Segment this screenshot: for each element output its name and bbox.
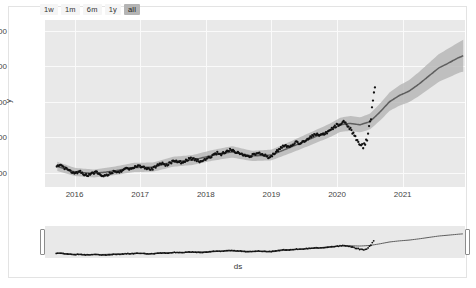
x-axis-title: ds [0, 262, 476, 271]
x-tick-label: 2021 [394, 190, 412, 199]
range-slider-traces [45, 226, 465, 258]
y-axis-title: y [4, 99, 13, 103]
range-button-6m[interactable]: 6m [83, 4, 102, 15]
x-tick-label: 2017 [131, 190, 149, 199]
range-slider-svg [45, 226, 465, 258]
forecast-line [57, 56, 463, 174]
mini-observed-points [55, 240, 374, 256]
range-button-1m[interactable]: 1m [61, 4, 80, 15]
range-end-handle[interactable] [465, 229, 470, 255]
range-button-1w[interactable]: 1w [40, 4, 58, 15]
plot-screenshot: 1w 1m 6m 1y all 2004006008001000 2016201… [0, 0, 476, 288]
range-selector[interactable]: 1w 1m 6m 1y all [40, 3, 140, 16]
x-tick-label: 2020 [328, 190, 346, 199]
range-button-all[interactable]: all [124, 4, 140, 15]
y-tick-label: 800 [0, 62, 7, 71]
main-series-svg [45, 20, 465, 187]
y-tick-label: 200 [0, 168, 7, 177]
x-tick-label: 2019 [263, 190, 281, 199]
x-tick-label: 2018 [197, 190, 215, 199]
range-button-1y[interactable]: 1y [105, 4, 121, 15]
y-tick-label: 400 [0, 133, 7, 142]
observed-points [56, 86, 376, 177]
confidence-interval-band [57, 40, 463, 178]
y-tick-label: 1000 [0, 26, 7, 35]
x-tick-label: 2016 [66, 190, 84, 199]
main-plot-traces [45, 20, 465, 187]
range-start-handle[interactable] [40, 229, 45, 255]
